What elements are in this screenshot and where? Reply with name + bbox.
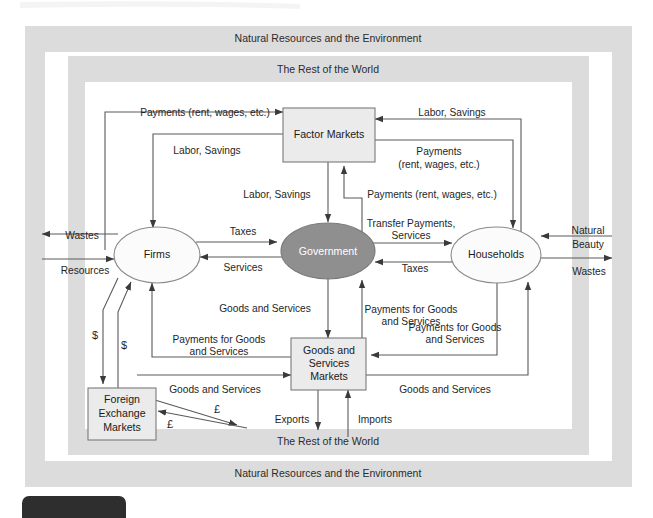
label-labor-savings-top-right: Labor, Savings [418,107,485,118]
households-label: Households [468,248,524,260]
label-wastes-right: Wastes [572,266,606,277]
label-goods-and-services-center: Goods and Services [219,303,311,314]
label-payments-for-goods-center-line1: Payments for Goods [365,304,458,315]
label-wastes-left: Wastes [65,230,99,241]
outer-band-bottom-label: Natural Resources and the Environment [235,467,422,479]
label-payments-for-goods-left-line2: and Services [190,346,249,357]
node-goods-services-markets[interactable]: Goods and Services Markets [291,338,366,390]
label-services-firms: Services [223,262,262,273]
node-households[interactable]: Households [451,227,541,283]
inner-band-bottom-label: The Rest of the World [277,435,379,447]
label-pound-in: £ [167,418,173,430]
label-taxes-firms: Taxes [230,226,257,237]
firms-label: Firms [144,248,170,260]
label-payments-for-goods-right-line2: and Services [426,334,485,345]
inner-band-top-label: The Rest of the World [277,63,379,75]
gsm-label-line1: Goods and [303,344,355,356]
scan-artifact-top [20,1,300,9]
label-exports: Exports [275,414,310,425]
gsm-label-line3: Markets [310,370,348,382]
label-imports: Imports [358,414,392,425]
label-payments-top-right-line2: (rent, wages, etc.) [398,159,480,170]
outer-band-top-label: Natural Resources and the Environment [235,32,422,44]
label-pound-out: £ [214,403,220,415]
label-payments-top-right-line1: Payments [416,146,461,157]
factor-markets-label: Factor Markets [294,128,365,140]
gsm-label-line2: Services [309,357,350,369]
government-label: Government [299,245,357,257]
label-goods-and-services-right: Goods and Services [399,384,491,395]
label-payments-for-goods-right-line1: Payments for Goods [409,322,502,333]
label-resources-left: Resources [61,265,110,276]
label-dollar-out: $ [92,329,98,341]
label-taxes-households: Taxes [402,263,429,274]
label-transfer-payments-line2: Services [391,230,430,241]
fx-label-line3: Markets [103,421,141,433]
label-natural-beauty-line1: Natural [572,225,605,236]
label-dollar-in: $ [121,339,127,351]
label-natural-beauty-line2: Beauty [572,239,605,250]
node-foreign-exchange-markets[interactable]: Foreign Exchange Markets [88,388,156,440]
label-transfer-payments-line1: Transfer Payments, [367,218,456,229]
page-bottom-tab-artifact [22,496,126,518]
fx-label-line2: Exchange [98,407,145,419]
label-payments-rent-wages-top-left: Payments (rent, wages, etc.) [140,107,270,118]
label-goods-and-services-left: Goods and Services [169,384,261,395]
fx-label-line1: Foreign [104,393,140,405]
node-government[interactable]: Government [281,223,375,279]
node-factor-markets[interactable]: Factor Markets [283,108,375,162]
label-labor-savings-top-left: Labor, Savings [173,145,240,156]
node-firms[interactable]: Firms [114,227,200,283]
label-payments-for-goods-left-line1: Payments for Goods [173,334,266,345]
label-payments-rent-wages-center-right: Payments (rent, wages, etc.) [367,189,497,200]
label-labor-savings-center: Labor, Savings [243,189,310,200]
